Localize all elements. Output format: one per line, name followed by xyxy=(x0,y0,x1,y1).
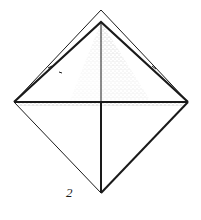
origami-fold-drawing xyxy=(0,0,201,220)
step-number-label: 2 xyxy=(66,186,73,199)
lower-left-edge xyxy=(14,102,101,193)
upper-flap-shading xyxy=(70,22,150,100)
lower-right-edge xyxy=(101,102,188,193)
